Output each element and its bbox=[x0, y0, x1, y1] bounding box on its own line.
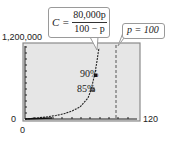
plot-area bbox=[23, 43, 140, 121]
x-min-label: 0 bbox=[20, 125, 25, 135]
equation-numerator: 80,000p bbox=[71, 9, 108, 20]
asymptote-callout: p = 100 bbox=[122, 23, 165, 39]
y-max-label: 1,200,000 bbox=[2, 32, 42, 42]
label-85-percent: 85% bbox=[77, 83, 95, 94]
equation-lhs: C = bbox=[52, 16, 70, 28]
label-90-percent: 90% bbox=[80, 68, 98, 79]
equation-denominator: 100 − p bbox=[71, 23, 108, 34]
x-max-label: 120 bbox=[143, 114, 158, 124]
y-min-label: 0 bbox=[11, 114, 16, 124]
curve-start bbox=[25, 118, 52, 119]
asymptote-label: p = 100 bbox=[127, 24, 159, 35]
equation-callout: C = 80,000p 100 − p bbox=[48, 7, 110, 38]
